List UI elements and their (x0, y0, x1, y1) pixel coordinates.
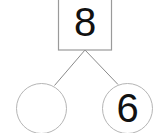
part-right-number-value: 6 (102, 88, 153, 128)
number-bond-diagram: 8 6 (0, 0, 156, 133)
part-circle-left[interactable] (17, 84, 67, 134)
connector-line-left (55, 50, 86, 86)
connector-line-right (85, 50, 118, 85)
whole-number-value: 8 (58, 2, 112, 42)
